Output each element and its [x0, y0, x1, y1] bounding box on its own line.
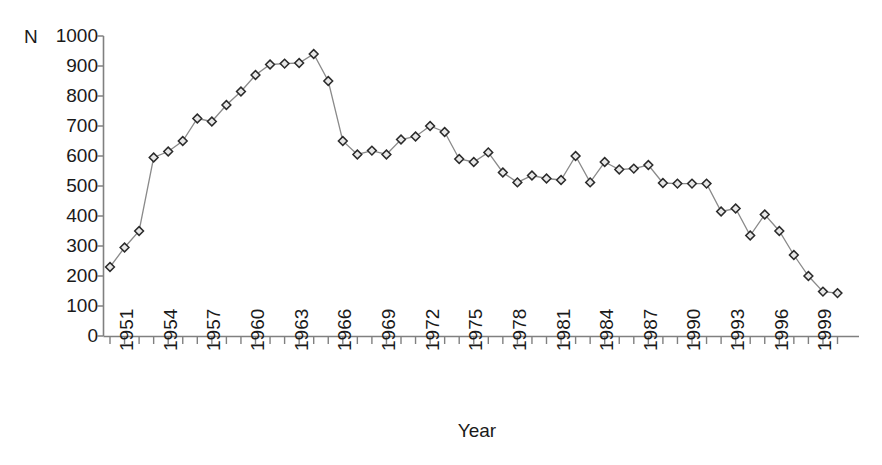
- chart-figure: N 10009008007006005004003002001000 19511…: [0, 0, 882, 465]
- x-axis-tick-labels: 1951195419571960196319661969197219751978…: [0, 0, 882, 465]
- x-tick-label: 1972: [423, 309, 442, 351]
- x-tick-label: 1960: [248, 309, 267, 351]
- x-tick-label: 1951: [117, 309, 136, 351]
- x-tick-label: 1996: [772, 309, 791, 351]
- x-tick-label: 1984: [597, 309, 616, 351]
- x-tick-label: 1975: [466, 309, 485, 351]
- x-tick-label: 1963: [292, 309, 311, 351]
- x-axis-title: Year: [0, 420, 882, 441]
- x-tick-label: 1957: [204, 309, 223, 351]
- x-tick-label: 1978: [510, 309, 529, 351]
- x-tick-label: 1969: [379, 309, 398, 351]
- x-tick-label: 1990: [684, 309, 703, 351]
- x-tick-label: 1999: [815, 309, 834, 351]
- x-tick-label: 1993: [728, 309, 747, 351]
- x-tick-label: 1981: [554, 309, 573, 351]
- x-axis-title-text: Year: [458, 420, 496, 441]
- x-tick-label: 1966: [335, 309, 354, 351]
- x-tick-label: 1987: [641, 309, 660, 351]
- x-tick-label: 1954: [161, 309, 180, 351]
